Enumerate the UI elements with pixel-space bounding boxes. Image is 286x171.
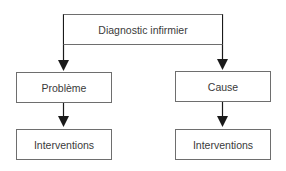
node-probleme: Problème [16,72,112,103]
node-interventions-right: Interventions [175,129,271,160]
root-node-label: Diagnostic infirmier [98,24,187,36]
node-cause: Cause [175,71,271,102]
node-interventions-left: Interventions [16,129,112,160]
node-interventions-right-label: Interventions [193,139,253,151]
node-interventions-left-label: Interventions [34,139,94,151]
root-node-diagnostic: Diagnostic infirmier [63,14,223,45]
node-cause-label: Cause [208,81,238,93]
node-probleme-label: Problème [42,82,87,94]
